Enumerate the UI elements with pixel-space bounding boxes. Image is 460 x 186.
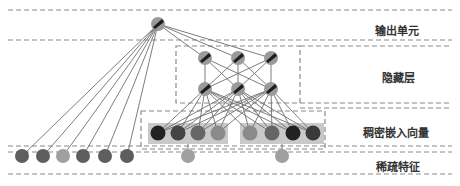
dense-embedding-node: [191, 126, 206, 141]
dense-embedding-node: [243, 126, 258, 141]
dense-embedding-node: [286, 126, 301, 141]
label-output-units: 输出单元: [375, 22, 419, 38]
dense-embedding-node: [306, 126, 321, 141]
sparse-feature-node: [275, 149, 289, 163]
edge: [22, 24, 158, 156]
edge: [63, 24, 158, 156]
sparse-feature-node: [36, 149, 50, 163]
dense-embedding-node: [211, 126, 226, 141]
label-sparse-features: 稀疏特征: [376, 158, 420, 174]
sparse-feature-node: [98, 149, 112, 163]
sparse-feature-node: [76, 149, 90, 163]
sparse-feature-node: [181, 149, 195, 163]
dense-embedding-node: [171, 126, 186, 141]
dense-embedding-node: [265, 126, 280, 141]
edge: [83, 24, 158, 156]
label-hidden-layer: 隐藏层: [382, 69, 415, 85]
sparse-feature-node: [120, 149, 134, 163]
sparse-feature-node: [15, 149, 29, 163]
label-dense-embeddings: 稠密嵌入向量: [363, 124, 429, 140]
dense-embedding-node: [151, 126, 166, 141]
sparse-feature-node: [56, 149, 70, 163]
edge: [158, 24, 271, 58]
